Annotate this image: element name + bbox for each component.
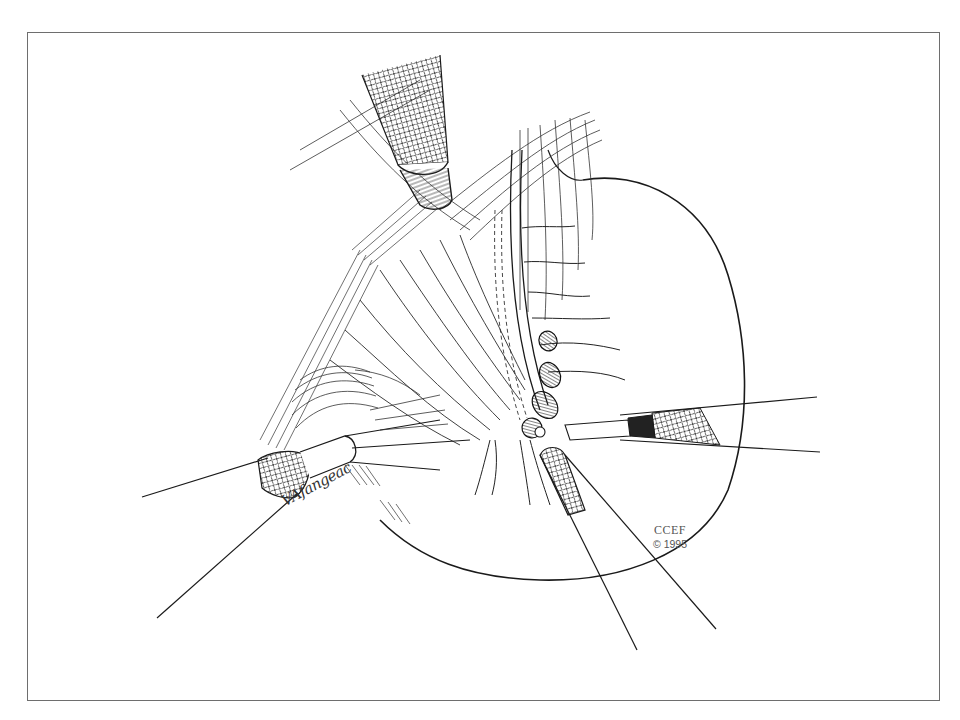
credit-organization: CCEF bbox=[653, 523, 687, 537]
vessel-branches bbox=[522, 226, 625, 380]
right-grasper bbox=[565, 397, 820, 452]
left-grasper bbox=[142, 420, 470, 618]
surgical-illustration bbox=[0, 0, 960, 720]
stomach-outline bbox=[380, 150, 745, 580]
fundus-fold bbox=[292, 366, 448, 430]
upper-trocar bbox=[362, 55, 452, 209]
copyright-credit: CCEF © 1995 bbox=[653, 523, 687, 551]
left-wall-hatching bbox=[260, 190, 438, 450]
credit-copyright: © 1995 bbox=[653, 537, 687, 551]
gastrohepatic-ligament bbox=[330, 235, 525, 445]
center-grasper bbox=[535, 427, 716, 650]
lower-fold-hatching bbox=[345, 465, 410, 524]
lower-vessels bbox=[475, 440, 550, 505]
